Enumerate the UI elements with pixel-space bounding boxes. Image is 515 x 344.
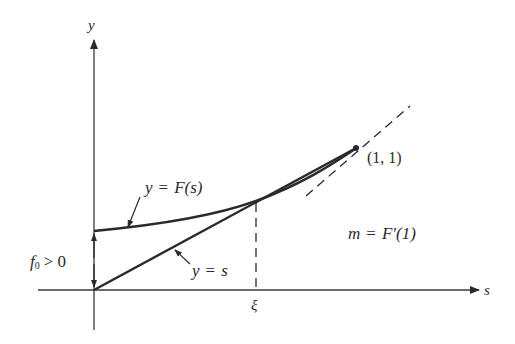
diagonal-label-rhs: s xyxy=(221,261,228,280)
slope-label-lhs: m xyxy=(348,224,360,243)
intercept-sub: 0 xyxy=(35,260,40,271)
s-axis-label: s xyxy=(484,282,490,298)
f-curve-pointer-arrow xyxy=(128,197,140,227)
f-curve-label-eq: = xyxy=(159,178,169,197)
diagonal-pointer-arrow xyxy=(175,250,190,264)
intercept-rel: > 0 xyxy=(44,252,66,271)
fixed-point-marker xyxy=(353,145,359,151)
slope-label: m=F′(1) xyxy=(348,224,416,243)
diagonal-label-eq: = xyxy=(206,261,216,280)
diagonal-label: y=s xyxy=(190,261,228,280)
xi-label: ξ xyxy=(251,297,258,313)
f-curve-label-lhs: y xyxy=(143,178,153,197)
f-curve-label-rhs: F(s) xyxy=(173,178,203,197)
y-axis-label: y xyxy=(86,17,95,33)
slope-label-eq: = xyxy=(366,224,376,243)
fixed-point-label: (1, 1) xyxy=(367,149,402,167)
intercept-label: f0> 0 xyxy=(30,252,66,271)
diagonal-label-lhs: y xyxy=(190,261,200,280)
fixed-point-diagram: s y f0> 0 (1, 1) ξ y=F(s) y=s m=F′(1) xyxy=(0,0,515,344)
slope-label-rhs: F′(1) xyxy=(381,224,416,243)
f-curve-label: y=F(s) xyxy=(143,178,203,197)
